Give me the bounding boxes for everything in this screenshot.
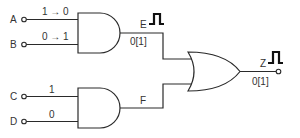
and-gate-2-icon [78, 88, 120, 128]
signal-value-z: 0[1] [252, 76, 269, 87]
input-label-a: A [10, 14, 17, 25]
input-label-c: C [10, 91, 17, 102]
pulse-icon [268, 52, 283, 63]
signal-label-f: F [140, 95, 146, 106]
signal-label-z: Z [260, 58, 266, 69]
pin-d-icon [22, 119, 27, 124]
input-label-d: D [10, 116, 17, 127]
input-value-c: 1 [49, 84, 55, 95]
signal-value-e: 0[1] [130, 36, 147, 47]
pulse-icon [149, 14, 164, 24]
logic-circuit-diagram: A B C D 1 → 0 0 → 1 1 0 E 0[1] F Z 0[1] [0, 0, 300, 138]
input-value-d: 0 [49, 109, 55, 120]
input-value-b: 0 → 1 [42, 31, 69, 42]
input-value-a: 1 → 0 [42, 6, 69, 17]
or-gate-icon [188, 52, 240, 91]
wire-f [120, 84, 192, 108]
pin-a-icon [22, 17, 27, 22]
pin-b-icon [22, 42, 27, 47]
and-gate-1-icon [78, 13, 120, 53]
input-label-b: B [10, 39, 17, 50]
pin-z-icon [276, 69, 281, 74]
pin-c-icon [22, 94, 27, 99]
signal-label-e: E [140, 19, 147, 30]
